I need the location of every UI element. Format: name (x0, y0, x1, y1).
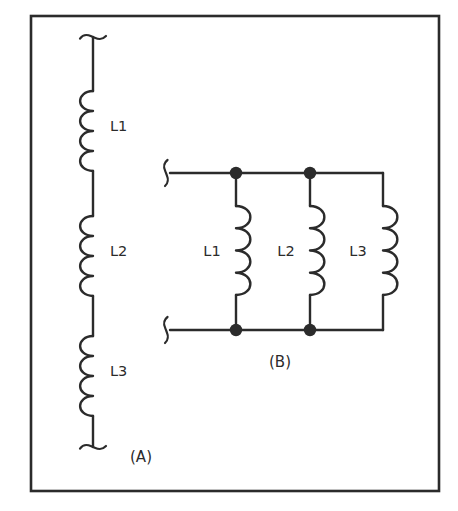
inductor-label-b-l2: L2 (277, 243, 294, 259)
junction-dot-bottom-l2 (304, 324, 316, 336)
figure-root: (A) L1 L2 L3 (B) L1 L2 L3 (0, 0, 458, 511)
inductor-label-a-l1: L1 (110, 118, 127, 134)
terminal-break-top-left (164, 160, 168, 186)
junction-dot-bottom-l1 (230, 324, 242, 336)
inductor-label-b-l3: L3 (349, 243, 366, 259)
inductor-coil-a-l2 (80, 216, 93, 296)
inductor-coil-a-l3 (80, 336, 93, 416)
circuit-a-series (80, 35, 106, 449)
inductor-label-a-l3: L3 (110, 363, 127, 379)
inductor-coil-b-l3 (383, 206, 397, 295)
inductor-coil-b-l2 (310, 206, 324, 295)
junction-dot-top-l1 (230, 167, 242, 179)
terminal-break-bottom-left (164, 317, 168, 343)
inductor-coil-b-l1 (236, 206, 250, 295)
inductor-label-b-l1: L1 (203, 243, 220, 259)
inductor-coil-a-l1 (80, 91, 93, 171)
inductor-label-a-l2: L2 (110, 243, 127, 259)
caption-b: (B) (269, 353, 291, 371)
caption-a: (A) (130, 448, 152, 466)
circuit-diagram-canvas: (A) L1 L2 L3 (B) L1 L2 L3 (0, 0, 458, 511)
junction-dot-top-l2 (304, 167, 316, 179)
